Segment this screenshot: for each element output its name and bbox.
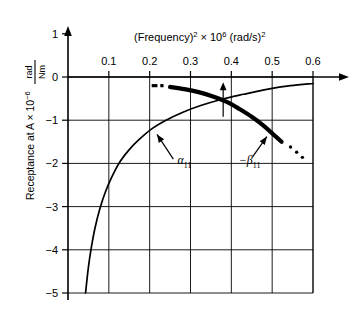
x-tick-label: 0.5 (265, 55, 280, 67)
curve-trail-dot (295, 150, 298, 153)
y-axis-label-text: Receptance at A × 10−6 (23, 91, 36, 200)
x-axis-arrowhead (339, 73, 349, 81)
y-axis-label-exponent: −6 (23, 91, 32, 100)
y-axis-label-group: Receptance at A × 10−6 (23, 91, 36, 200)
y-tick-label: −2 (45, 157, 58, 169)
curve-trail-dot (301, 156, 304, 159)
unit-denominator: Nm (37, 65, 47, 79)
x-tick-label: 0.1 (101, 55, 116, 67)
title-times: × 10 (197, 31, 222, 43)
title-exp3: 2 (261, 30, 265, 39)
title-base1: (Frequency) (134, 31, 193, 43)
x-tick-label: 0.3 (183, 55, 198, 67)
y-tick-label: −5 (45, 287, 58, 299)
y-tick-label: 0 (52, 71, 58, 83)
curve-beta11 (170, 87, 281, 142)
unit-numerator: rad (24, 65, 34, 78)
y-axis-unit-fraction: rad Nm (24, 60, 47, 84)
x-tick-label: 0.2 (142, 55, 157, 67)
vertical-up-arrow-head (220, 82, 227, 90)
x-tick-labels: 0.10.20.30.40.50.6 (101, 55, 320, 67)
beta-arrow-label-subscript: 11 (253, 161, 261, 170)
curve-trail-dot (289, 145, 292, 148)
beta-arrow-label: −β11 (239, 153, 261, 170)
x-tick-label: 0.4 (224, 55, 239, 67)
curve-alpha11 (86, 83, 313, 293)
title-text: (Frequency)2 × 106 (rad/s)2 (134, 30, 265, 43)
x-tick-label: 0.6 (305, 55, 320, 67)
alpha-arrow-label: α11 (177, 153, 191, 170)
y-tick-label: −1 (45, 114, 58, 126)
beta-arrow-label-base: −β (239, 153, 253, 167)
y-axis-label-main: Receptance at A × 10 (24, 100, 36, 200)
receptance-frequency-chart: 0.10.20.30.40.50.6 10−1−2−3−4−5 α11−β11 … (0, 0, 359, 310)
y-tick-labels: 10−1−2−3−4−5 (45, 28, 58, 299)
alpha-arrow-label-subscript: 11 (184, 161, 192, 170)
data-curves (86, 83, 313, 293)
beta-arrow-head (260, 137, 267, 145)
chart-canvas: 0.10.20.30.40.50.6 10−1−2−3−4−5 α11−β11 … (0, 0, 359, 310)
y-tick-label: −3 (45, 201, 58, 213)
y-tick-label: 1 (52, 28, 58, 40)
y-tick-label: −4 (45, 244, 58, 256)
title-base2: (rad/s) (226, 31, 261, 43)
y-axis-arrowhead (64, 26, 72, 36)
alpha-arrow-head (157, 134, 164, 142)
chart-title: (Frequency)2 × 106 (rad/s)2 (134, 30, 265, 43)
